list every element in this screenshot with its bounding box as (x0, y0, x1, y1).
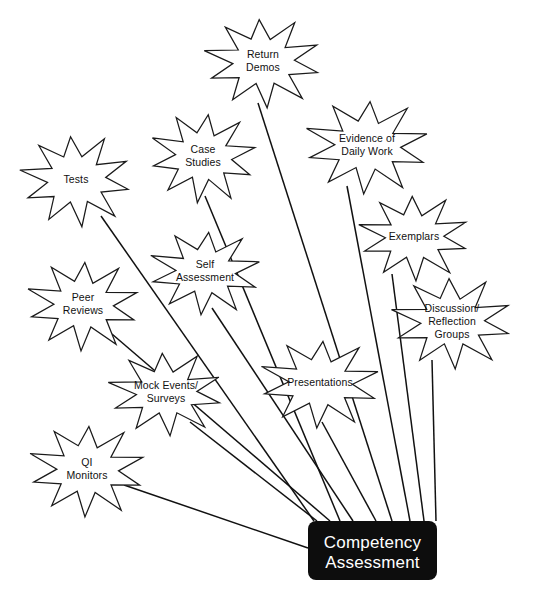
connector-discussion-reflection-groups (432, 360, 436, 521)
star-label-evidence-of-daily-work: Evidence of (339, 132, 395, 144)
star-node-case-studies[interactable]: CaseStudies (152, 115, 254, 203)
star-nodes-group: ReturnDemosEvidence ofDaily WorkCaseStud… (20, 20, 508, 517)
star-node-mock-events-surveys[interactable]: Mock Events/Surveys (108, 353, 219, 435)
star-label-return-demos: Demos (246, 61, 280, 73)
diagram-canvas: ReturnDemosEvidence ofDaily WorkCaseStud… (0, 0, 533, 596)
star-label-mock-events-surveys: Mock Events/ (134, 379, 198, 391)
star-label-discussion-reflection-groups: Reflection (428, 315, 476, 327)
star-node-peer-reviews[interactable]: PeerReviews (28, 263, 137, 351)
star-label-presentations: Presentations (287, 376, 353, 388)
connector-self-assessment (212, 308, 353, 521)
star-node-evidence-of-daily-work[interactable]: Evidence ofDaily Work (307, 102, 427, 194)
connector-qi-monitors (124, 485, 308, 548)
star-label-self-assessment: Assessment (176, 271, 234, 283)
star-label-discussion-reflection-groups: Discussion/ (425, 302, 480, 314)
star-label-case-studies: Studies (185, 156, 221, 168)
hub-label-line2: Assessment (325, 553, 420, 572)
star-label-mock-events-surveys: Surveys (147, 392, 186, 404)
star-label-discussion-reflection-groups: Groups (434, 328, 469, 340)
connector-presentations (322, 422, 376, 521)
star-label-case-studies: Case (191, 143, 216, 155)
star-label-peer-reviews: Peer (72, 291, 95, 303)
competency-assessment-diagram: ReturnDemosEvidence ofDaily WorkCaseStud… (0, 0, 533, 596)
star-node-return-demos[interactable]: ReturnDemos (204, 20, 317, 108)
star-node-presentations[interactable]: Presentations (262, 341, 378, 427)
star-node-qi-monitors[interactable]: QIMonitors (30, 427, 143, 517)
star-label-exemplars: Exemplars (389, 230, 440, 242)
star-label-tests: Tests (63, 173, 88, 185)
star-label-peer-reviews: Reviews (63, 304, 103, 316)
star-label-qi-monitors: QI (81, 456, 92, 468)
star-node-exemplars[interactable]: Exemplars (359, 196, 466, 281)
star-label-evidence-of-daily-work: Daily Work (341, 145, 393, 157)
star-node-self-assessment[interactable]: SelfAssessment (151, 232, 260, 314)
hub-label-line1: Competency (324, 533, 422, 552)
star-label-return-demos: Return (247, 48, 279, 60)
star-node-discussion-reflection-groups[interactable]: Discussion/ReflectionGroups (391, 279, 508, 369)
star-node-tests[interactable]: Tests (20, 137, 128, 227)
hub-group: Competency Assessment (308, 521, 437, 580)
star-label-qi-monitors: Monitors (66, 469, 107, 481)
star-label-self-assessment: Self (196, 258, 215, 270)
